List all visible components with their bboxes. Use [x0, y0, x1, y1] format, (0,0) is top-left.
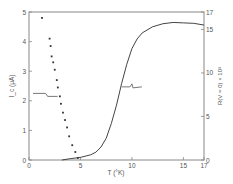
- data-point: [71, 144, 73, 146]
- x-axis: 05101517: [27, 157, 208, 169]
- arrow-right-axis: [122, 84, 142, 88]
- right-tick-label: 15: [206, 26, 214, 33]
- annotation-arrows: [33, 84, 142, 97]
- data-point: [77, 157, 79, 159]
- data-point: [54, 69, 56, 71]
- left-axis: 012345: [22, 9, 32, 164]
- data-point: [41, 17, 43, 19]
- plot-area: 012345 05101517 05101517 T (°K) I_c (μA)…: [0, 0, 233, 184]
- resistance-line: [62, 22, 204, 160]
- x-tick-label: 0: [27, 162, 31, 169]
- data-point: [56, 79, 58, 81]
- x-tick-label: 10: [128, 162, 136, 169]
- critical-current-points: [41, 17, 79, 159]
- right-tick-label: 10: [206, 69, 214, 76]
- plot-frame: [29, 12, 204, 160]
- data-point: [52, 61, 54, 63]
- x-tick-label: 15: [180, 162, 188, 169]
- data-point: [59, 95, 61, 97]
- left-tick-label: 1: [22, 127, 26, 134]
- data-point: [62, 112, 64, 114]
- data-point: [74, 151, 76, 153]
- data-point: [66, 127, 68, 129]
- resistance-curve: [62, 22, 204, 160]
- data-point: [50, 45, 52, 47]
- left-tick-label: 5: [22, 9, 26, 16]
- left-tick-label: 0: [22, 157, 26, 164]
- x-tick-label: 17: [200, 162, 208, 169]
- right-axis: 05101517: [201, 9, 214, 164]
- left-tick-label: 4: [22, 38, 26, 45]
- data-point: [51, 56, 53, 58]
- data-point: [68, 135, 70, 137]
- y-axis-label: I_c (μA): [8, 75, 16, 98]
- x-axis-label: T (°K): [108, 169, 125, 177]
- data-point: [57, 87, 59, 89]
- chart: 012345 05101517 05101517 T (°K) I_c (μA)…: [0, 0, 233, 184]
- left-tick-label: 2: [22, 97, 26, 104]
- y2-axis-label: R(V = 0) × 10³: [217, 67, 223, 105]
- data-point: [49, 38, 51, 40]
- left-tick-label: 3: [22, 68, 26, 75]
- data-point: [60, 103, 62, 105]
- x-tick-label: 5: [79, 162, 83, 169]
- data-point: [64, 119, 66, 121]
- arrow-left-axis: [33, 93, 58, 96]
- right-tick-label: 5: [206, 113, 210, 120]
- right-tick-label: 17: [206, 9, 214, 16]
